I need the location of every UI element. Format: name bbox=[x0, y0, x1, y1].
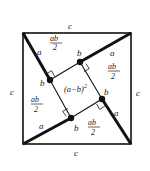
vertex-dot-bottom bbox=[68, 115, 74, 121]
vertex-dot-top bbox=[77, 59, 83, 65]
svg-text:ab: ab bbox=[50, 34, 58, 43]
label-b-right: b bbox=[104, 87, 109, 97]
area-label-bottom: ab 2 bbox=[88, 118, 100, 137]
svg-text:2: 2 bbox=[34, 105, 38, 114]
svg-text:2: 2 bbox=[111, 72, 115, 81]
svg-text:2: 2 bbox=[91, 128, 95, 137]
label-c-bottom: c bbox=[74, 148, 78, 158]
label-c-left: c bbox=[10, 87, 14, 97]
inner-square-label: (a−b)2 bbox=[64, 83, 87, 94]
label-c-right: c bbox=[136, 88, 140, 98]
leg-a-bottom-right bbox=[102, 99, 131, 144]
leg-a-top-right bbox=[80, 33, 131, 62]
label-b-left: b bbox=[40, 78, 45, 88]
label-a-top-right: a bbox=[110, 48, 115, 58]
svg-text:2: 2 bbox=[53, 43, 57, 52]
area-label-left: ab 2 bbox=[31, 95, 43, 114]
vertex-dot-left bbox=[47, 77, 53, 83]
label-a-top-left: a bbox=[37, 47, 42, 57]
label-b-bottom: b bbox=[74, 123, 79, 133]
area-label-right: ab 2 bbox=[108, 62, 120, 81]
svg-text:ab: ab bbox=[31, 95, 39, 104]
pythagoras-diagram: c c c c a a a a b b b b ab 2 ab 2 ab 2 a… bbox=[0, 0, 150, 171]
label-a-bottom-left: a bbox=[39, 121, 44, 131]
svg-text:ab: ab bbox=[108, 62, 116, 71]
label-b-top: b bbox=[77, 48, 82, 58]
label-a-bottom-right: a bbox=[114, 108, 119, 118]
area-label-top: ab 2 bbox=[50, 34, 62, 52]
leg-a-bottom-left bbox=[23, 118, 71, 144]
svg-text:ab: ab bbox=[88, 118, 96, 127]
label-c-top: c bbox=[68, 21, 72, 31]
